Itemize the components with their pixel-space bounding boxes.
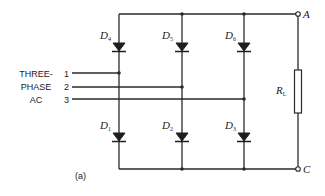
junction-dot (242, 97, 246, 101)
diode-d6-icon (237, 43, 251, 52)
three-phase-bridge-rectifier-diagram: A C D4 D5 D6 D1 D2 D3 RL THREE- PHASE AC… (0, 0, 325, 196)
junction-dot (117, 71, 121, 75)
phase-3-number: 3 (64, 95, 69, 105)
diode-d1-icon (112, 133, 126, 142)
terminal-a-label: A (302, 8, 310, 20)
junction-dot (242, 12, 246, 16)
terminal-c-label: C (303, 163, 311, 175)
load-resistor-icon (295, 70, 302, 113)
terminal-c-icon (296, 167, 301, 172)
terminal-a-icon (296, 12, 301, 17)
junction-dot (180, 167, 184, 171)
phase-1-number: 1 (64, 69, 69, 79)
diode-d4-icon (112, 43, 126, 52)
diode-d3-icon (237, 133, 251, 142)
diode-d1-label: D1 (99, 119, 111, 132)
figure-caption: (a) (75, 171, 86, 181)
diode-d5-label: D5 (161, 29, 173, 42)
diode-d4-label: D4 (99, 29, 111, 42)
input-label-line-1: THREE- (19, 69, 53, 79)
load-resistor-label: RL (275, 84, 287, 97)
junction-dot (180, 12, 184, 16)
input-label-line-3: AC (30, 95, 43, 105)
diode-d5-icon (175, 43, 189, 52)
junction-dot (180, 85, 184, 89)
diode-d2-label: D2 (161, 119, 173, 132)
diode-d6-label: D6 (224, 29, 236, 42)
input-label-line-2: PHASE (21, 82, 52, 92)
diode-d2-icon (175, 133, 189, 142)
phase-2-number: 2 (64, 82, 69, 92)
junction-dot (242, 167, 246, 171)
diode-d3-label: D3 (224, 119, 236, 132)
